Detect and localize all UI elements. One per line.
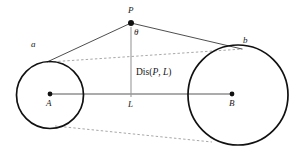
- distance-suffix: ): [168, 67, 171, 77]
- label-tangent-a: a: [31, 40, 36, 49]
- label-point-p: P: [128, 6, 134, 15]
- label-theta: θ: [134, 28, 138, 37]
- distance-prefix: Dis(: [136, 67, 152, 77]
- geometry-diagram: P θ a b A B L Dis(P, L): [0, 0, 298, 152]
- label-distance-p-l: Dis(P, L): [136, 68, 171, 78]
- center-dot-b: [230, 92, 235, 97]
- dashed-lower-tangent-line: [55, 126, 212, 142]
- ray-p-to-b: [131, 23, 242, 49]
- circle-b: [188, 45, 288, 145]
- ray-p-to-a: [47, 23, 131, 62]
- center-dot-a: [48, 92, 53, 97]
- label-center-b: B: [229, 99, 235, 108]
- label-tangent-b: b: [243, 36, 248, 45]
- label-foot-l: L: [128, 100, 133, 109]
- point-p-dot: [128, 20, 134, 26]
- label-center-a: A: [46, 99, 52, 108]
